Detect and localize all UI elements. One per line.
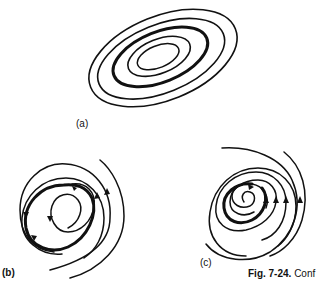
limit-cycle-heavy (25, 185, 93, 250)
panel-label-a: (a) (76, 118, 88, 129)
arrow-icon (297, 196, 303, 203)
arrow-icon (94, 192, 100, 199)
panel-label-c: (c) (200, 257, 212, 268)
arrow-icon (23, 212, 29, 218)
panel-c-spirals (206, 148, 305, 260)
arrow-icon (273, 196, 279, 203)
panel-a-orbits (75, 0, 251, 126)
caption-number: Fig. 7-24. (248, 268, 291, 279)
figure-caption: Fig. 7-24. Conf (248, 268, 315, 279)
spiral-4 (206, 148, 297, 260)
outer-spiral-2 (20, 164, 110, 270)
arrow-icon (283, 196, 289, 203)
arrow-icon (263, 196, 269, 203)
orbit-2 (86, 2, 236, 115)
panel-b-spirals (20, 160, 124, 278)
panel-label-b: (b) (2, 267, 15, 278)
orbit-inner-2 (134, 38, 183, 75)
orbit-inner-1 (122, 28, 196, 84)
caption-text: Conf (294, 268, 315, 279)
figure-canvas (0, 0, 328, 283)
